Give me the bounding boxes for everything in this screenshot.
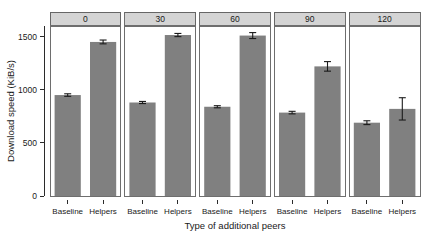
x-axis-category-label: Baseline [277, 207, 308, 216]
bar-30-baseline [129, 103, 155, 197]
chart-container: 050010001500Download speed (KiB/s)0Basel… [0, 0, 437, 247]
panel-strip-label: 0 [83, 14, 88, 24]
x-axis-category-label: Helpers [164, 207, 192, 216]
bar-0-baseline [55, 95, 81, 196]
panel-strip-label: 30 [155, 14, 165, 24]
y-axis-tick-label: 500 [23, 138, 37, 148]
panel-strip-label: 90 [305, 14, 315, 24]
bar-60-helpers [240, 36, 266, 196]
x-axis-category-label: Helpers [389, 207, 417, 216]
bar-90-helpers [314, 66, 340, 196]
x-axis-category-label: Baseline [127, 207, 158, 216]
x-axis-category-label: Helpers [89, 207, 117, 216]
bar-0-helpers [90, 42, 116, 196]
x-axis-category-label: Baseline [52, 207, 83, 216]
panel-strip-label: 120 [378, 14, 392, 24]
x-axis-category-label: Baseline [202, 207, 233, 216]
panel-strip-label: 60 [230, 14, 240, 24]
bar-30-helpers [165, 35, 191, 196]
bar-60-baseline [204, 107, 230, 196]
x-axis-title: Type of additional peers [185, 220, 286, 231]
y-axis-tick-label: 0 [32, 191, 37, 201]
bar-120-baseline [354, 123, 380, 196]
bar-chart-figure: 050010001500Download speed (KiB/s)0Basel… [0, 0, 437, 247]
x-axis-category-label: Helpers [239, 207, 267, 216]
bar-120-helpers [389, 109, 415, 196]
bar-90-baseline [279, 113, 305, 196]
x-axis-category-label: Helpers [314, 207, 342, 216]
y-axis-tick-label: 1000 [18, 85, 37, 95]
y-axis-title: Download speed (KiB/s) [5, 60, 16, 162]
y-axis-tick-label: 1500 [18, 32, 37, 42]
x-axis-category-label: Baseline [352, 207, 383, 216]
